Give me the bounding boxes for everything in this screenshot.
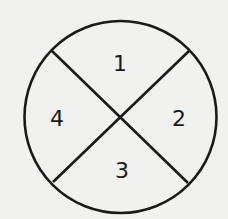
section-label-bottom: 3 xyxy=(115,158,129,183)
section-label-left: 4 xyxy=(50,106,64,131)
section-label-right: 2 xyxy=(172,106,186,131)
section-label-top: 1 xyxy=(113,51,127,76)
quadrant-circle-diagram: 1 2 3 4 xyxy=(0,0,228,219)
